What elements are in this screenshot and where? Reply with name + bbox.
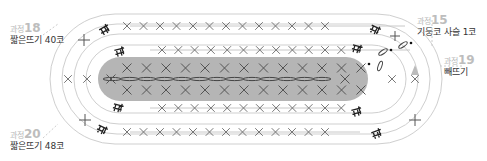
label-step20: 과정20 짧은뜨기 48코 bbox=[10, 128, 64, 151]
step-number: 15 bbox=[431, 13, 448, 27]
single-crochet-stitch bbox=[123, 128, 131, 136]
chain-stitch bbox=[378, 48, 388, 57]
single-crochet-stitch bbox=[64, 75, 72, 83]
slip-stitch-dot bbox=[368, 63, 371, 66]
single-crochet-stitch bbox=[83, 75, 91, 83]
label-step18: 과정18 짧은뜨기 40코 bbox=[10, 22, 64, 45]
step-prefix: 과정 bbox=[10, 25, 24, 34]
step-desc: 기둥코 사슬 1코 bbox=[417, 28, 476, 37]
step-prefix: 과정 bbox=[417, 17, 431, 26]
increase-stitch bbox=[114, 46, 126, 57]
step-number: 18 bbox=[24, 21, 41, 35]
plus-stitch bbox=[78, 34, 90, 46]
step-prefix: 과정 bbox=[10, 131, 24, 140]
label-step15: 과정15 기둥코 사슬 1코 bbox=[417, 14, 476, 37]
step-number: 20 bbox=[24, 127, 41, 141]
chain-stitch bbox=[377, 61, 384, 72]
step-prefix: 과정 bbox=[444, 57, 458, 66]
crochet-chart bbox=[0, 0, 487, 161]
plus-stitch bbox=[390, 31, 400, 41]
single-crochet-stitch bbox=[123, 22, 131, 30]
step-desc: 짧은뜨기 48코 bbox=[10, 142, 64, 151]
increase-stitch bbox=[351, 106, 363, 117]
increase-stitch bbox=[112, 102, 124, 113]
single-crochet-stitch bbox=[388, 75, 396, 83]
slip-stitch-dot bbox=[390, 49, 393, 52]
step-desc: 빼뜨기 bbox=[444, 68, 475, 77]
step-desc: 짧은뜨기 40코 bbox=[10, 36, 64, 45]
increase-stitch bbox=[96, 123, 109, 135]
arrow-stitch bbox=[411, 65, 419, 75]
step-number: 19 bbox=[458, 53, 475, 67]
plus-stitch bbox=[409, 114, 421, 126]
label-step19: 과정19 빼뜨기 bbox=[444, 54, 475, 77]
plus-stitch bbox=[79, 114, 91, 126]
slip-stitch-dot bbox=[410, 42, 413, 45]
